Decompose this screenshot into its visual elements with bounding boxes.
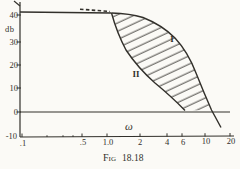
y-tick-label-40: 40	[10, 10, 19, 20]
y-tick-label-neg10: -10	[6, 131, 17, 141]
x-tick-label-0p5: .5	[80, 137, 86, 147]
scanned-figure-page: 40 30 20 10 0 -10 db .1 .5 1.0 2 4 6 10 …	[0, 0, 240, 169]
y-axis-unit-db: db	[5, 24, 15, 34]
figure-caption: Fig 18.18	[103, 152, 144, 163]
flat-gain-line	[20, 12, 112, 13]
y-tick-label-10: 10	[10, 83, 19, 93]
x-tick-label-0p1: .1	[20, 138, 26, 148]
x-tick-label-20: 20	[227, 136, 236, 146]
y-axis-labels: 40 30 20 10 0 -10 db	[5, 10, 18, 141]
bode-plot-figure: 40 30 20 10 0 -10 db .1 .5 1.0 2 4 6 10 …	[0, 0, 240, 169]
curve-one-label: I	[170, 34, 174, 44]
x-tick-label-2: 2	[138, 137, 142, 147]
x-axis-omega-symbol: ω	[125, 120, 133, 132]
x-tick-label-4: 4	[165, 137, 170, 147]
y-tick-label-30: 30	[10, 37, 19, 47]
caption-fig-word: Fig	[103, 152, 116, 163]
curve-two-label: II	[132, 69, 140, 79]
x-tick-label-6: 6	[181, 137, 185, 147]
y-tick-label-20: 20	[10, 60, 19, 70]
y-axis-top-hook	[14, 1, 20, 6]
y-tick-label-0: 0	[14, 107, 18, 117]
caption-fig-number: 18.18	[122, 153, 144, 163]
x-tick-label-1: 1.0	[103, 137, 114, 147]
x-tick-label-10: 10	[202, 136, 211, 146]
dashed-asymptote-line	[80, 9, 110, 11]
